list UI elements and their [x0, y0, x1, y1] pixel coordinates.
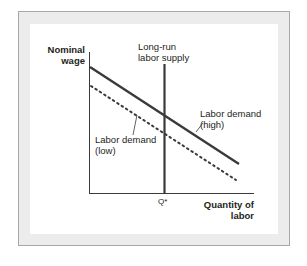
high-demand-label: Labor demand (high) [200, 108, 261, 130]
supply-label: Long-run labor supply [138, 41, 189, 63]
y-axis-label: Nominal wage [47, 44, 85, 66]
y-axis-label-line2: wage [47, 55, 85, 66]
x-axis-label-line1: Quantity of [196, 199, 254, 210]
q-star-tick-label: Q* [158, 196, 167, 207]
y-axis-label-line1: Nominal [47, 44, 85, 55]
high-demand-label-line2: (high) [200, 119, 261, 130]
x-axis-label: Quantity of labor [196, 199, 254, 221]
supply-label-line2: labor supply [138, 52, 189, 63]
x-axis-label-line2: labor [196, 210, 254, 221]
low-demand-label-line1: Labor demand [95, 134, 156, 145]
chart-plot [0, 0, 307, 266]
supply-label-line1: Long-run [138, 41, 189, 52]
low-demand-label-line2: (low) [95, 145, 156, 156]
low-demand-label: Labor demand (low) [95, 134, 156, 156]
high-demand-label-line1: Labor demand [200, 108, 261, 119]
low-leader [133, 115, 137, 135]
